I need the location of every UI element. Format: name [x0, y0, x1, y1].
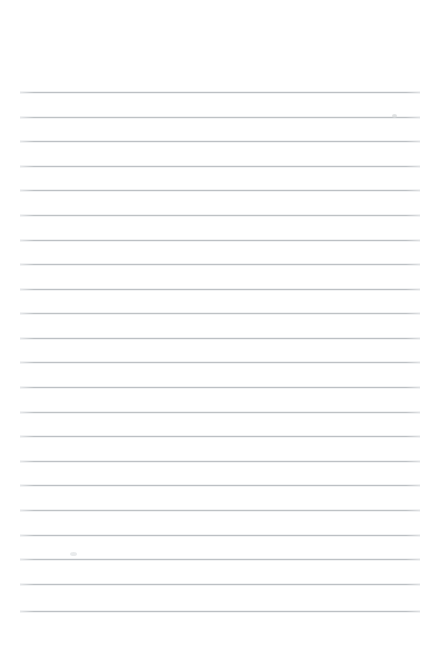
rule-line [20, 338, 420, 339]
rule-line [20, 92, 420, 93]
rule-line [20, 387, 420, 388]
pencil-smudge-lower-left [70, 552, 77, 556]
rule-line [20, 461, 420, 462]
rule-line [20, 535, 420, 536]
rule-line [20, 436, 420, 437]
rule-line [20, 215, 420, 216]
rule-line [20, 240, 420, 241]
rule-line [20, 362, 420, 363]
rule-line [20, 166, 420, 167]
rule-line [20, 584, 420, 585]
rule-line [20, 289, 420, 290]
rule-line [20, 141, 420, 142]
ruled-writing-area[interactable] [0, 0, 441, 645]
rule-line [20, 190, 420, 191]
rule-line [20, 611, 420, 612]
rule-line [20, 264, 420, 265]
page-footer-margin [0, 615, 441, 645]
rule-line [20, 313, 420, 314]
rule-line [20, 412, 420, 413]
rule-line [20, 559, 420, 560]
rule-line [20, 485, 420, 486]
rule-line [20, 510, 420, 511]
rule-line [20, 117, 420, 118]
notepad-page [0, 0, 441, 645]
